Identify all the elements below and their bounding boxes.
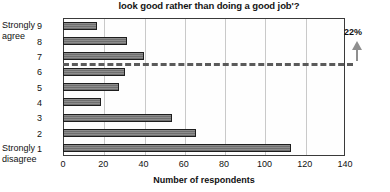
bar-9[interactable] <box>63 22 97 30</box>
bar-8[interactable] <box>63 37 127 45</box>
bar-row <box>63 141 291 156</box>
y-axis-label-strongly-agree-line2: agree <box>2 31 54 42</box>
bar-row <box>63 95 101 110</box>
x-tick-140: 140 <box>325 159 365 169</box>
bar-chart: look good rather than doing a good job'? <box>0 0 390 192</box>
x-tick-0: 0 <box>43 159 83 169</box>
y-tick-7: 7 <box>28 52 42 62</box>
bar-row <box>63 110 172 125</box>
bar-row <box>63 64 125 79</box>
y-tick-3: 3 <box>28 113 42 123</box>
x-tick-100: 100 <box>244 159 284 169</box>
bar-4[interactable] <box>63 98 101 106</box>
y-tick-2: 2 <box>28 129 42 139</box>
y-axis-label-strongly-agree-line1: Strongly <box>2 20 54 31</box>
up-arrow-icon <box>352 41 362 61</box>
bar-2[interactable] <box>63 129 196 137</box>
bar-row <box>63 79 119 94</box>
bars-layer <box>63 18 345 156</box>
bar-row <box>63 18 97 33</box>
x-tick-80: 80 <box>204 159 244 169</box>
bar-6[interactable] <box>63 68 125 76</box>
bar-1[interactable] <box>63 144 291 152</box>
x-axis-title: Number of respondents <box>63 175 345 185</box>
y-tick-6: 6 <box>28 67 42 77</box>
x-tick-40: 40 <box>124 159 164 169</box>
annotation-22-percent-label: 22% <box>344 27 362 37</box>
y-axis-label-strongly-disagree-line1: Strongly <box>2 143 54 154</box>
bar-row <box>63 125 196 140</box>
bar-3[interactable] <box>63 114 172 122</box>
bar-row <box>63 49 144 64</box>
y-tick-4: 4 <box>28 98 42 108</box>
y-tick-5: 5 <box>28 83 42 93</box>
x-tick-20: 20 <box>83 159 123 169</box>
y-axis-label-strongly-agree: Strongly agree <box>2 20 54 41</box>
bar-row <box>63 33 127 48</box>
chart-title: look good rather than doing a good job'? <box>0 0 390 11</box>
x-tick-60: 60 <box>164 159 204 169</box>
x-tick-120: 120 <box>285 159 325 169</box>
reference-dashed-line <box>63 63 353 66</box>
bar-5[interactable] <box>63 83 119 91</box>
bar-7[interactable] <box>63 52 144 60</box>
